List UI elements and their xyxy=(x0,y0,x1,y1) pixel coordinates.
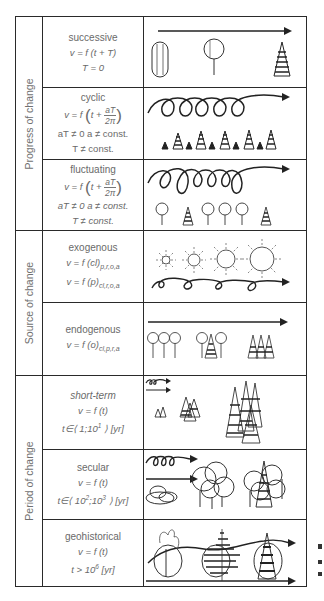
range-suffix: [yr] xyxy=(99,564,115,575)
fraction: aT2π xyxy=(104,177,116,198)
equation: v = f (t) xyxy=(78,475,108,490)
eq-subscript: p,r,o,a xyxy=(100,263,119,270)
short-term-illustration xyxy=(144,375,307,449)
row-title: endogenous xyxy=(65,322,120,337)
group-source-of-change: Source of change xyxy=(16,230,42,375)
fraction-denominator: 2π xyxy=(105,188,115,198)
eq-prefix: v = f xyxy=(64,109,82,120)
row-title: short-term xyxy=(70,388,116,403)
condition: aT ≠ 0 a ≠ const. xyxy=(58,126,128,141)
equation: v = f (cl)p,r,o,a xyxy=(66,255,120,274)
condition: T = 0 xyxy=(82,60,104,75)
fluctuating-illustration xyxy=(144,159,307,230)
fraction-numerator: aT xyxy=(104,105,116,116)
condition: T ≠ const. xyxy=(72,141,113,156)
drawing-geohistorical xyxy=(144,519,307,587)
range: t∈⟨ 102;103 ⟩ [yr] xyxy=(58,490,129,508)
equation: v = f (t) xyxy=(78,403,108,418)
equation: v = f (t) xyxy=(78,544,108,559)
row-successive: successive v = f (t + T) T = 0 xyxy=(43,17,143,87)
equation: v = f (o)cl,p,r,a xyxy=(66,337,119,356)
drawing-cyclic xyxy=(144,87,307,159)
row-secular: secular v = f (t) t∈⟨ 102;103 ⟩ [yr] xyxy=(43,449,143,519)
row-fluctuating: fluctuating v = f (t + aT2π) aT ≠ 0 a ≠ … xyxy=(43,159,143,230)
exogenous-illustration xyxy=(144,230,307,302)
range-prefix: t > 10 xyxy=(71,564,95,575)
edge-mark xyxy=(318,572,322,576)
equation: v = f (p)cl,r,o,a xyxy=(66,274,119,293)
secular-illustration xyxy=(144,449,307,519)
geohistorical-illustration xyxy=(144,519,307,587)
row-title: exogenous xyxy=(69,240,118,255)
row-short-term: short-term v = f (t) t∈⟨ 1;101 ⟩ [yr] xyxy=(43,375,143,449)
equation: v = f (t + aT2π) xyxy=(64,105,122,126)
row-title: successive xyxy=(69,30,118,45)
eq-main: v = f (p) xyxy=(66,276,98,287)
row-title: fluctuating xyxy=(70,162,116,177)
fraction: aT2π xyxy=(104,105,116,126)
row-endogenous: endogenous v = f (o)cl,p,r,a xyxy=(43,302,143,375)
drawing-fluctuating xyxy=(144,159,307,230)
drawing-successive xyxy=(144,17,307,87)
drawing-secular xyxy=(144,449,307,519)
equation: v = f (t + aT2π) xyxy=(64,177,122,198)
row-cyclic: cyclic v = f (t + aT2π) aT ≠ 0 a ≠ const… xyxy=(43,87,143,159)
range-suffix: ⟩ [yr] xyxy=(101,423,123,434)
range-prefix: t∈⟨ 10 xyxy=(58,495,86,506)
drawing-endogenous xyxy=(144,302,307,375)
cyclic-illustration xyxy=(144,87,307,159)
drawing-short-term xyxy=(144,375,307,449)
range-prefix: t∈⟨ 1;10 xyxy=(62,423,98,434)
eq-main: v = f (cl) xyxy=(66,257,100,268)
equation: v = f (t + T) xyxy=(70,45,116,60)
eq-subscript: cl,r,o,a xyxy=(99,281,120,288)
endogenous-illustration xyxy=(144,302,307,375)
range: t∈⟨ 1;101 ⟩ [yr] xyxy=(62,418,124,436)
group-period-of-change: Period of change xyxy=(16,375,42,587)
group-label: Period of change xyxy=(23,441,35,520)
classification-table: Progress of change Source of change Peri… xyxy=(15,16,307,587)
eq-inner: t + xyxy=(91,109,102,120)
condition: T ≠ const. xyxy=(72,213,114,228)
fraction-numerator: aT xyxy=(104,177,116,188)
eq-main: v = f (o) xyxy=(66,339,98,350)
row-title: geohistorical xyxy=(65,529,121,544)
condition: aT ≠ 0 a ≠ const. xyxy=(58,198,129,213)
group-label: Source of change xyxy=(23,261,35,343)
row-title: secular xyxy=(77,460,109,475)
successive-illustration xyxy=(144,17,307,87)
range-mid: ;10 xyxy=(89,495,102,506)
eq-inner: t + xyxy=(91,181,102,192)
row-exogenous: exogenous v = f (cl)p,r,o,a v = f (p)cl,… xyxy=(43,230,143,302)
eq-subscript: cl,p,r,a xyxy=(99,344,120,351)
eq-prefix: v = f xyxy=(64,181,82,192)
row-title: cyclic xyxy=(81,90,105,105)
edge-mark xyxy=(318,544,322,549)
row-geohistorical: geohistorical v = f (t) t > 106 [yr] xyxy=(43,519,143,587)
group-label: Progress of change xyxy=(23,78,35,169)
range: t > 106 [yr] xyxy=(71,559,115,577)
group-progress-of-change: Progress of change xyxy=(16,17,42,230)
range-suffix: ⟩ [yr] xyxy=(106,495,128,506)
edge-mark xyxy=(318,560,322,564)
drawing-exogenous xyxy=(144,230,307,302)
fraction-denominator: 2π xyxy=(105,116,115,126)
